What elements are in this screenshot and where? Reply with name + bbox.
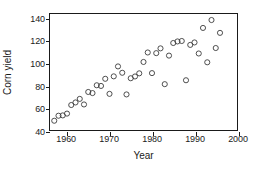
data-points-layer: [50, 14, 237, 130]
data-point: [141, 59, 146, 64]
data-point: [209, 17, 214, 22]
data-point: [115, 64, 120, 69]
data-point: [107, 91, 112, 96]
y-axis-tick: [46, 87, 50, 88]
data-point: [52, 118, 57, 123]
data-point: [81, 102, 86, 107]
scatter-points: [50, 14, 237, 130]
y-axis-tick-label: 60: [35, 104, 45, 114]
y-axis-tick: [46, 109, 50, 110]
data-point: [64, 111, 69, 116]
data-point: [111, 74, 116, 79]
data-point: [149, 71, 154, 76]
x-axis-tick-label: 2000: [228, 134, 248, 144]
y-axis-title: Corn yield: [2, 13, 14, 131]
x-axis-tick-label: 1960: [56, 134, 76, 144]
plot-area: 406080100120140: [49, 13, 238, 131]
x-axis-tick-label: 1970: [99, 134, 119, 144]
data-point: [183, 78, 188, 83]
data-point: [77, 96, 82, 101]
data-point: [120, 70, 125, 75]
data-point: [154, 51, 159, 56]
data-point: [162, 82, 167, 87]
y-axis-tick: [46, 132, 50, 133]
y-axis-tick-label: 120: [30, 36, 45, 46]
data-point: [124, 92, 129, 97]
y-axis-tick-label: 40: [35, 127, 45, 137]
y-axis-title-text: Corn yield: [3, 49, 14, 94]
data-point: [137, 71, 142, 76]
data-point: [217, 30, 222, 35]
y-axis-tick: [46, 41, 50, 42]
data-point: [145, 50, 150, 55]
data-point: [205, 60, 210, 65]
data-point: [73, 100, 78, 105]
data-point: [200, 25, 205, 30]
data-point: [158, 46, 163, 51]
data-point: [192, 40, 197, 45]
y-axis-tick-label: 100: [30, 59, 45, 69]
x-axis-tick-label: 1980: [142, 134, 162, 144]
data-point: [196, 51, 201, 56]
y-axis-tick: [46, 19, 50, 20]
scatter-chart-figure: Corn yield 406080100120140 Year 19601970…: [0, 0, 264, 170]
data-point: [103, 76, 108, 81]
y-axis-tick-label: 80: [35, 82, 45, 92]
x-axis-title-text: Year: [133, 150, 153, 161]
data-point: [166, 53, 171, 58]
y-axis-tick: [46, 64, 50, 65]
x-axis-title: Year: [49, 150, 238, 161]
x-axis-tick-label: 1990: [185, 134, 205, 144]
data-point: [213, 45, 218, 50]
y-axis-tick-label: 140: [30, 14, 45, 24]
